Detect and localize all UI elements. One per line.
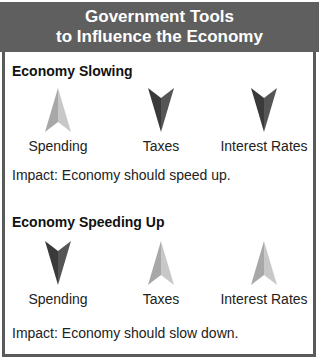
- arrow-down-icon: [251, 88, 277, 132]
- item-spending-speeding: Spending: [3, 241, 113, 307]
- section-title-speeding-up: Economy Speeding Up: [12, 214, 164, 230]
- arrow-down-icon: [45, 241, 71, 285]
- item-taxes-speeding: Taxes: [106, 241, 216, 307]
- impact-text-speeding-up: Impact: Economy should slow down.: [12, 325, 238, 341]
- item-label: Interest Rates: [209, 291, 319, 307]
- arrow-up-icon: [148, 241, 174, 285]
- impact-text-slowing: Impact: Economy should speed up.: [12, 167, 231, 183]
- item-interest-rates-slowing: Interest Rates: [209, 88, 319, 154]
- diagram-title: Government Tools to Influence the Econom…: [0, 2, 319, 52]
- item-label: Spending: [3, 138, 113, 154]
- arrow-down-icon: [148, 88, 174, 132]
- item-label: Taxes: [106, 138, 216, 154]
- section-title-slowing: Economy Slowing: [12, 63, 133, 79]
- item-label: Taxes: [106, 291, 216, 307]
- item-label: Interest Rates: [209, 138, 319, 154]
- arrow-up-icon: [45, 88, 71, 132]
- arrow-up-icon: [251, 241, 277, 285]
- title-line-1: Government Tools: [0, 7, 319, 27]
- item-spending-slowing: Spending: [3, 88, 113, 154]
- item-label: Spending: [3, 291, 113, 307]
- title-line-2: to Influence the Economy: [0, 27, 319, 47]
- item-taxes-slowing: Taxes: [106, 88, 216, 154]
- item-interest-rates-speeding: Interest Rates: [209, 241, 319, 307]
